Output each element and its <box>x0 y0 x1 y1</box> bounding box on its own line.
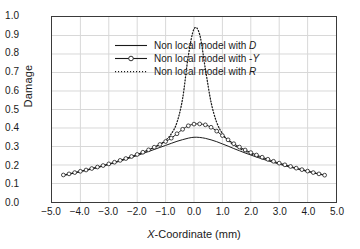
x-axis-title-text: -Coordinate (mm) <box>155 228 241 240</box>
y-tick-label: 1.0 <box>0 11 19 21</box>
chart-figure: Damage 0.00.10.20.30.40.50.60.70.80.91.0… <box>0 0 360 249</box>
plot-area: Non local model with DNon local model wi… <box>51 16 337 203</box>
y-tick-label: 0.3 <box>0 142 19 152</box>
legend-item[interactable]: Non local model with R <box>114 65 259 78</box>
x-axis-title-symbol: X <box>147 228 154 240</box>
legend-key-dotted-icon <box>114 66 148 77</box>
legend-item-label: Non local model with -Y <box>154 52 259 65</box>
y-axis-title-text: Damage <box>22 65 34 108</box>
x-axis-title: X-Coordinate (mm) <box>51 228 337 240</box>
y-tick-label: 0.8 <box>0 48 19 58</box>
y-tick-label: 0.7 <box>0 67 19 77</box>
legend-key-solid-marker-icon <box>114 53 148 64</box>
y-tick-label: 0.5 <box>0 105 19 115</box>
y-tick-label: 0.2 <box>0 161 19 171</box>
x-tick-label: 5.0 <box>317 207 357 217</box>
y-tick-label: 0.4 <box>0 123 19 133</box>
legend-item[interactable]: Non local model with D <box>114 39 259 52</box>
legend-key-solid-icon <box>114 40 148 51</box>
y-tick-label: 0.1 <box>0 179 19 189</box>
chart-legend: Non local model with DNon local model wi… <box>114 39 259 78</box>
legend-item-label: Non local model with R <box>154 65 256 78</box>
y-tick-label: 0.0 <box>0 198 19 208</box>
legend-item[interactable]: Non local model with -Y <box>114 52 259 65</box>
y-tick-label: 0.6 <box>0 86 19 96</box>
legend-item-label: Non local model with D <box>154 39 256 52</box>
y-tick-label: 0.9 <box>0 30 19 40</box>
y-axis-title: Damage <box>22 36 34 136</box>
